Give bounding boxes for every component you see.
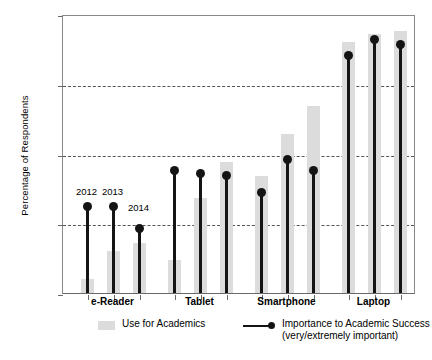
dot-smartphone-2014: [309, 166, 318, 175]
stem-e-reader-2014: [138, 229, 140, 293]
gridline-50: [63, 156, 414, 157]
dot-e-reader-2012: [83, 202, 92, 211]
chart-figure: Percentage of Respondents Use for Academ…: [0, 0, 432, 360]
stem-laptop-2014: [399, 45, 401, 293]
y-tick-mark-100: [58, 16, 63, 17]
x-tick-mark-tablet-2014: [227, 295, 228, 300]
x-axis-label-smartphone: Smartphone: [257, 296, 315, 307]
x-tick-mark-tablet-2012: [175, 295, 176, 300]
stem-tablet-2012: [173, 170, 175, 293]
chart-legend: Use for Academics Importance to Academic…: [0, 318, 432, 348]
figure-caption: [4, 352, 428, 360]
x-tick-mark-laptop-2014: [401, 295, 402, 300]
legend-swatch-bars: [98, 321, 115, 330]
annotation-year-2013: 2013: [102, 186, 123, 197]
annotation-year-2014: 2014: [128, 202, 149, 213]
annotation-year-2012: 2012: [76, 186, 97, 197]
x-tick-mark-laptop-2012: [349, 295, 350, 300]
dot-smartphone-2013: [283, 155, 292, 164]
dot-laptop-2013: [370, 35, 379, 44]
dot-tablet-2014: [222, 171, 231, 180]
x-axis-label-e-reader: e-Reader: [91, 296, 134, 307]
dot-tablet-2012: [170, 166, 179, 175]
legend-dot-marker: [268, 322, 275, 329]
dot-e-reader-2013: [109, 202, 118, 211]
dot-e-reader-2014: [135, 224, 144, 233]
dot-laptop-2012: [344, 51, 353, 60]
gridline-75: [63, 86, 414, 87]
plot-inner: [63, 16, 414, 293]
plot-area: [62, 15, 415, 294]
stem-tablet-2014: [225, 176, 227, 293]
stem-laptop-2012: [347, 56, 349, 293]
y-axis-title: Percentage of Respondents: [19, 56, 30, 256]
stem-smartphone-2012: [260, 193, 262, 293]
stem-laptop-2013: [373, 39, 375, 293]
y-tick-mark-0: [58, 295, 63, 296]
y-tick-mark-75: [58, 86, 63, 87]
legend-label-bars: Use for Academics: [122, 318, 205, 329]
x-axis-label-laptop: Laptop: [357, 296, 390, 307]
x-axis-label-tablet: Tablet: [185, 296, 214, 307]
stem-smartphone-2014: [312, 170, 314, 293]
dot-laptop-2014: [396, 40, 405, 49]
stem-tablet-2013: [199, 173, 201, 293]
legend-line-marker: [243, 325, 270, 327]
y-tick-mark-25: [58, 225, 63, 226]
y-tick-mark-50: [58, 156, 63, 157]
legend-sublabel-line: (very/extremely important): [282, 330, 398, 341]
dot-tablet-2013: [196, 169, 205, 178]
x-tick-mark-e-reader-2012: [88, 295, 89, 300]
stem-smartphone-2013: [286, 159, 288, 293]
dot-smartphone-2012: [257, 188, 266, 197]
stem-e-reader-2013: [112, 207, 114, 293]
gridline-25: [63, 225, 414, 226]
x-tick-mark-e-reader-2014: [140, 295, 141, 300]
legend-label-line: Importance to Academic Success: [282, 318, 430, 329]
stem-e-reader-2012: [86, 207, 88, 293]
